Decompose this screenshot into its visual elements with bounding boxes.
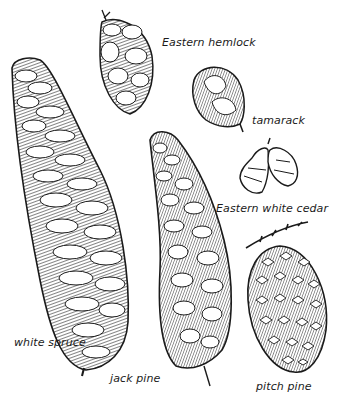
label-tamarack: tamarack	[252, 114, 305, 127]
label-eastern-hemlock: Eastern hemlock	[162, 36, 256, 49]
label-pitch-pine: pitch pine	[256, 380, 312, 393]
tamarack-cone	[193, 67, 245, 132]
eastern-white-cedar-cone	[240, 138, 298, 193]
label-eastern-white-cedar: Eastern white cedar	[216, 202, 328, 215]
pitch-pine-cone	[246, 222, 327, 372]
label-white-spruce: white spruce	[14, 336, 86, 349]
white-spruce-cone	[12, 58, 128, 376]
eastern-hemlock-cone	[100, 10, 153, 114]
jack-pine-cone	[150, 132, 231, 386]
label-jack-pine: jack pine	[110, 372, 160, 385]
